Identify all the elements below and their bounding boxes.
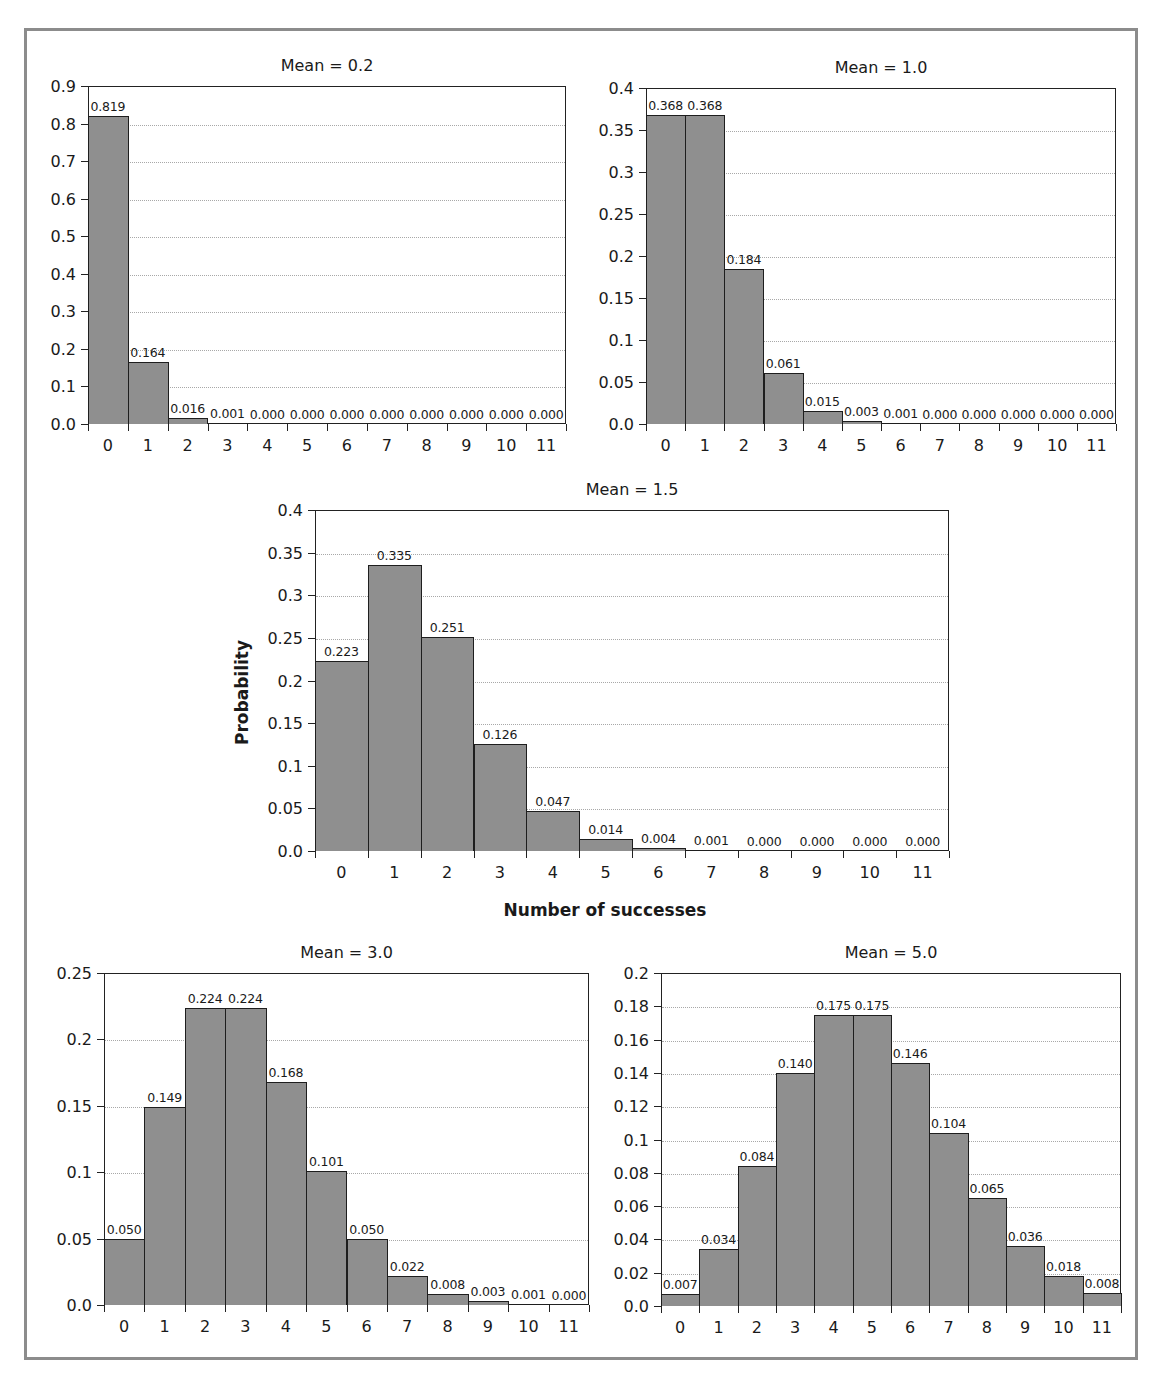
y-tick-label: 0.1 — [599, 1130, 649, 1149]
x-tick-label: 9 — [461, 436, 471, 455]
x-tick-label: 4 — [828, 1318, 838, 1337]
x-tick — [367, 424, 368, 431]
bar — [814, 1015, 853, 1306]
x-tick-label: 9 — [812, 863, 822, 882]
x-tick — [104, 1305, 105, 1312]
bar — [685, 850, 739, 852]
y-tick-label: 0.18 — [599, 997, 649, 1016]
y-tick-label: 0.4 — [584, 79, 634, 98]
bar — [929, 1133, 968, 1306]
bar-value-label: 0.000 — [449, 407, 484, 422]
chart-title: Mean = 1.5 — [586, 480, 679, 499]
bar-value-label: 0.034 — [701, 1232, 736, 1247]
chart-title: Mean = 5.0 — [845, 943, 938, 962]
x-tick-label: 10 — [860, 863, 880, 882]
x-tick — [407, 424, 408, 431]
x-tick-label: 3 — [790, 1318, 800, 1337]
bar — [88, 116, 129, 424]
x-tick — [738, 1306, 739, 1313]
y-tick — [97, 973, 104, 974]
x-tick — [208, 424, 209, 431]
x-tick — [468, 1305, 469, 1312]
bar-value-label: 0.000 — [922, 407, 957, 422]
y-tick — [81, 424, 88, 425]
y-tick-label: 0.05 — [42, 1229, 92, 1248]
y-tick — [308, 638, 315, 639]
bar-value-label: 0.175 — [816, 998, 851, 1013]
gridline — [662, 1007, 1120, 1008]
x-tick — [306, 1305, 307, 1312]
bar-value-label: 0.065 — [969, 1181, 1004, 1196]
x-tick-label: 11 — [559, 1317, 579, 1336]
x-tick — [1044, 1306, 1045, 1313]
chart-title: Mean = 0.2 — [281, 56, 374, 75]
x-tick — [421, 851, 422, 858]
bar-value-label: 0.001 — [883, 406, 918, 421]
bar — [387, 1276, 428, 1305]
y-tick — [308, 510, 315, 511]
y-tick-label: 0.6 — [26, 189, 76, 208]
x-tick — [842, 424, 843, 431]
y-tick-label: 0.2 — [26, 339, 76, 358]
bar-value-label: 0.000 — [800, 834, 835, 849]
bar — [508, 1304, 549, 1306]
bar-value-label: 0.003 — [844, 404, 879, 419]
x-tick — [579, 851, 580, 858]
x-tick — [920, 424, 921, 431]
y-tick-label: 0.15 — [253, 714, 303, 733]
x-tick-label: 6 — [653, 863, 663, 882]
y-tick-label: 0.05 — [253, 799, 303, 818]
x-tick-label: 3 — [778, 436, 788, 455]
y-tick-label: 0.2 — [42, 1030, 92, 1049]
bar — [468, 1301, 509, 1305]
x-tick — [929, 1306, 930, 1313]
x-tick — [791, 851, 792, 858]
x-tick — [724, 424, 725, 431]
x-tick-label: 11 — [536, 436, 556, 455]
x-tick — [549, 1305, 550, 1312]
x-tick — [853, 1306, 854, 1313]
bar-value-label: 0.001 — [694, 833, 729, 848]
x-tick — [999, 424, 1000, 431]
bar-value-label: 0.000 — [330, 407, 365, 422]
bar — [1083, 1293, 1122, 1306]
x-tick-label: 0 — [660, 436, 670, 455]
bar-value-label: 0.016 — [170, 401, 205, 416]
x-tick-label: 1 — [143, 436, 153, 455]
bar-value-label: 0.036 — [1008, 1229, 1043, 1244]
bar — [266, 1082, 307, 1305]
x-tick — [738, 851, 739, 858]
y-tick — [639, 382, 646, 383]
bar-value-label: 0.335 — [377, 548, 412, 563]
bar-value-label: 0.000 — [529, 407, 564, 422]
bar-value-label: 0.000 — [290, 407, 325, 422]
x-tick-label: 8 — [442, 1317, 452, 1336]
y-tick-label: 0.1 — [253, 756, 303, 775]
x-tick — [764, 424, 765, 431]
x-tick-label: 10 — [1047, 436, 1067, 455]
gridline — [89, 312, 565, 313]
x-tick — [128, 424, 129, 431]
x-tick — [327, 424, 328, 431]
y-tick — [308, 553, 315, 554]
y-axis-title: Probability — [232, 640, 252, 745]
x-tick-label: 1 — [713, 1318, 723, 1337]
y-tick — [81, 199, 88, 200]
bar-value-label: 0.819 — [91, 99, 126, 114]
y-tick-label: 0.05 — [584, 373, 634, 392]
x-tick — [387, 1305, 388, 1312]
bar — [776, 1073, 815, 1306]
x-tick-label: 4 — [281, 1317, 291, 1336]
bar-value-label: 0.168 — [268, 1065, 303, 1080]
bar-value-label: 0.001 — [210, 406, 245, 421]
y-tick-label: 0.0 — [42, 1296, 92, 1315]
y-tick-label: 0.35 — [584, 121, 634, 140]
bar-value-label: 0.000 — [250, 407, 285, 422]
x-tick-label: 11 — [912, 863, 932, 882]
x-tick-label: 1 — [160, 1317, 170, 1336]
y-tick — [654, 1140, 661, 1141]
x-tick — [508, 1305, 509, 1312]
x-tick — [447, 424, 448, 431]
bar — [968, 1198, 1007, 1306]
bar — [306, 1171, 347, 1305]
